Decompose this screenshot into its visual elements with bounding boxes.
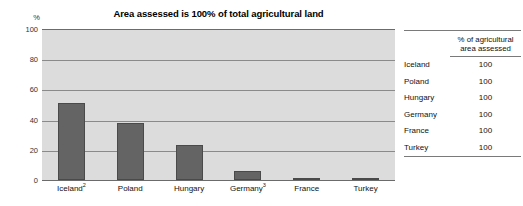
x-tick-label-text: Poland	[118, 184, 143, 193]
table-header-line1: % of agricultural	[458, 35, 514, 44]
x-tick-label-text: Germany	[230, 184, 263, 193]
chart-title: Area assessed is 100% of total agricultu…	[42, 8, 395, 19]
bar-chart-panel: Area assessed is 100% of total agricultu…	[0, 0, 400, 206]
table-cell-country: Hungary	[404, 90, 450, 107]
y-tick-label-100: 100	[16, 25, 38, 34]
data-table: % of agricultural area assessed Iceland1…	[404, 30, 521, 158]
x-tick-label-text: France	[294, 184, 319, 193]
y-tick-label-80: 80	[16, 55, 38, 64]
x-tick-label-france: France	[294, 184, 319, 193]
table-row: Germany100	[404, 106, 521, 123]
table-row: Turkey100	[404, 139, 521, 156]
table-cell-country: Iceland	[404, 56, 450, 73]
bar-germany	[234, 171, 261, 180]
bars-layer	[42, 29, 395, 180]
y-axis-tick-labels: 100806040200	[14, 29, 38, 180]
table-cell-percent-assessed: 100	[450, 139, 521, 156]
table-header-line2: area assessed	[460, 44, 511, 53]
table-cell-country: Germany	[404, 106, 450, 123]
table-header-row: % of agricultural area assessed	[404, 32, 521, 56]
table-cell-percent-assessed: 100	[450, 90, 521, 107]
table-cell-percent-assessed: 100	[450, 56, 521, 73]
x-tick-label-text: Iceland	[57, 184, 83, 193]
bar-turkey	[352, 178, 379, 180]
table-cell-country: Turkey	[404, 139, 450, 156]
x-tick-label-text: Turkey	[354, 184, 378, 193]
table-row: France100	[404, 123, 521, 140]
table-row: Hungary100	[404, 90, 521, 107]
x-tick-label-germany: Germany3	[230, 184, 266, 193]
data-table-panel: % of agricultural area assessed Iceland1…	[404, 30, 521, 158]
bar-poland	[117, 123, 144, 180]
table-cell-percent-assessed: 100	[450, 123, 521, 140]
x-tick-label-iceland: Iceland2	[57, 184, 86, 193]
table-cell-percent-assessed: 100	[450, 73, 521, 90]
table-header-value-cell: % of agricultural area assessed	[450, 32, 521, 56]
x-tick-footnote-marker: 3	[263, 182, 266, 188]
x-tick-label-hungary: Hungary	[174, 184, 204, 193]
x-tick-label-poland: Poland	[118, 184, 143, 193]
bar-hungary	[176, 145, 203, 180]
table-row: Iceland100	[404, 56, 521, 73]
table-body: Iceland100Poland100Hungary100Germany100F…	[404, 56, 521, 156]
x-tick-label-text: Hungary	[174, 184, 204, 193]
y-tick-label-20: 20	[16, 145, 38, 154]
table-row: Poland100	[404, 73, 521, 90]
table-bottom-rule	[404, 156, 521, 158]
table-cell-country: France	[404, 123, 450, 140]
x-tick-footnote-marker: 2	[83, 182, 86, 188]
y-axis-unit-label: %	[26, 13, 40, 22]
x-tick-label-turkey: Turkey	[354, 184, 378, 193]
table-cell-country: Poland	[404, 73, 450, 90]
y-tick-label-40: 40	[16, 115, 38, 124]
y-tick-label-0: 0	[16, 176, 38, 185]
bar-france	[293, 178, 320, 180]
bar-iceland	[58, 103, 85, 180]
table-cell-percent-assessed: 100	[450, 106, 521, 123]
x-axis-tick-labels: Iceland2PolandHungaryGermany3FranceTurke…	[42, 184, 395, 200]
x-axis-line	[42, 180, 395, 181]
figure-container: Area assessed is 100% of total agricultu…	[0, 0, 523, 206]
y-tick-label-60: 60	[16, 85, 38, 94]
table-header-label-cell	[404, 32, 450, 56]
